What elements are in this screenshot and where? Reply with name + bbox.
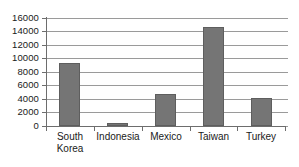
grid-end-tick-2000: [285, 112, 288, 113]
y-axis-label-0: 0: [0, 121, 39, 131]
gridline-10000: [46, 58, 285, 59]
bar-taiwan: [203, 27, 224, 126]
y-axis-label-8000: 8000: [0, 67, 39, 77]
plot-area: [46, 18, 285, 126]
x-axis-label-turkey: Turkey: [237, 131, 285, 143]
y-tick-10000: [42, 58, 46, 59]
gridline-8000: [46, 72, 285, 73]
y-axis-label-16000: 16000: [0, 13, 39, 23]
y-tick-8000: [42, 72, 46, 73]
y-tick-6000: [42, 85, 46, 86]
grid-end-tick-16000: [285, 18, 288, 19]
x-axis-label-indonesia: Indonesia: [92, 131, 144, 143]
bar-south-korea: [59, 63, 80, 126]
gridline-16000: [46, 18, 285, 19]
y-tick-4000: [42, 99, 46, 100]
bar-indonesia: [107, 123, 128, 126]
grid-end-tick-4000: [285, 99, 288, 100]
x-tick-boundary-5: [285, 126, 286, 131]
x-axis-label-taiwan: Taiwan: [190, 131, 237, 143]
y-axis-label-4000: 4000: [0, 94, 39, 104]
grid-end-tick-6000: [285, 85, 288, 86]
grid-end-tick-10000: [285, 58, 288, 59]
axis-baseline: [46, 126, 285, 127]
bar-mexico: [155, 94, 176, 126]
grid-end-tick-12000: [285, 45, 288, 46]
x-axis-label-south-korea: South Korea: [46, 131, 94, 154]
y-axis-label-2000: 2000: [0, 107, 39, 117]
y-axis-label-12000: 12000: [0, 40, 39, 50]
y-tick-2000: [42, 112, 46, 113]
bar-chart: 16000 14000 12000 10000 8000 6000 4000 2…: [0, 0, 299, 167]
gridline-14000: [46, 31, 285, 32]
y-tick-16000: [42, 18, 46, 19]
y-tick-12000: [42, 45, 46, 46]
gridline-6000: [46, 85, 285, 86]
bar-turkey: [251, 98, 272, 126]
y-axis-label-10000: 10000: [0, 53, 39, 63]
x-axis-label-mexico: Mexico: [142, 131, 190, 143]
y-tick-14000: [42, 31, 46, 32]
gridline-12000: [46, 45, 285, 46]
y-axis-label-14000: 14000: [0, 26, 39, 36]
grid-end-tick-8000: [285, 72, 288, 73]
grid-end-tick-14000: [285, 31, 288, 32]
y-axis-line: [46, 17, 47, 127]
y-axis-label-6000: 6000: [0, 80, 39, 90]
